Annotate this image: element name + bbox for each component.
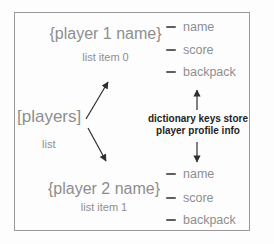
player2-key-row-backpack: backpack [166, 213, 236, 227]
key-label: name [183, 20, 214, 34]
players-list-label: [players] [17, 107, 81, 127]
player2-key-row-score: score [166, 191, 214, 205]
annotation-line2: player profile info [140, 125, 256, 137]
key-tick-icon [166, 49, 176, 51]
key-tick-icon [166, 197, 176, 199]
key-tick-icon [166, 26, 176, 28]
key-tick-icon [166, 173, 176, 175]
key-label: backpack [183, 213, 236, 227]
key-tick-icon [166, 71, 176, 73]
player2-key-row-name: name [166, 167, 214, 181]
annotation-line1: dictionary keys store [140, 113, 256, 125]
key-label: name [183, 167, 214, 181]
diagram-canvas: {player 1 name} list item 0 name score b… [0, 0, 274, 244]
annotation-text: dictionary keys store player profile inf… [140, 113, 256, 137]
player1-key-row-backpack: backpack [166, 65, 236, 79]
key-label: backpack [183, 65, 236, 79]
key-label: score [183, 43, 214, 57]
players-list-type-label: list [42, 138, 55, 151]
player1-key-row-score: score [166, 43, 214, 57]
player1-key-row-name: name [166, 20, 214, 34]
key-label: score [183, 191, 214, 205]
key-tick-icon [166, 219, 176, 221]
